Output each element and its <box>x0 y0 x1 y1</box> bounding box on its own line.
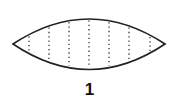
lens-outline <box>13 19 165 70</box>
figure-label: 1 <box>0 80 179 100</box>
